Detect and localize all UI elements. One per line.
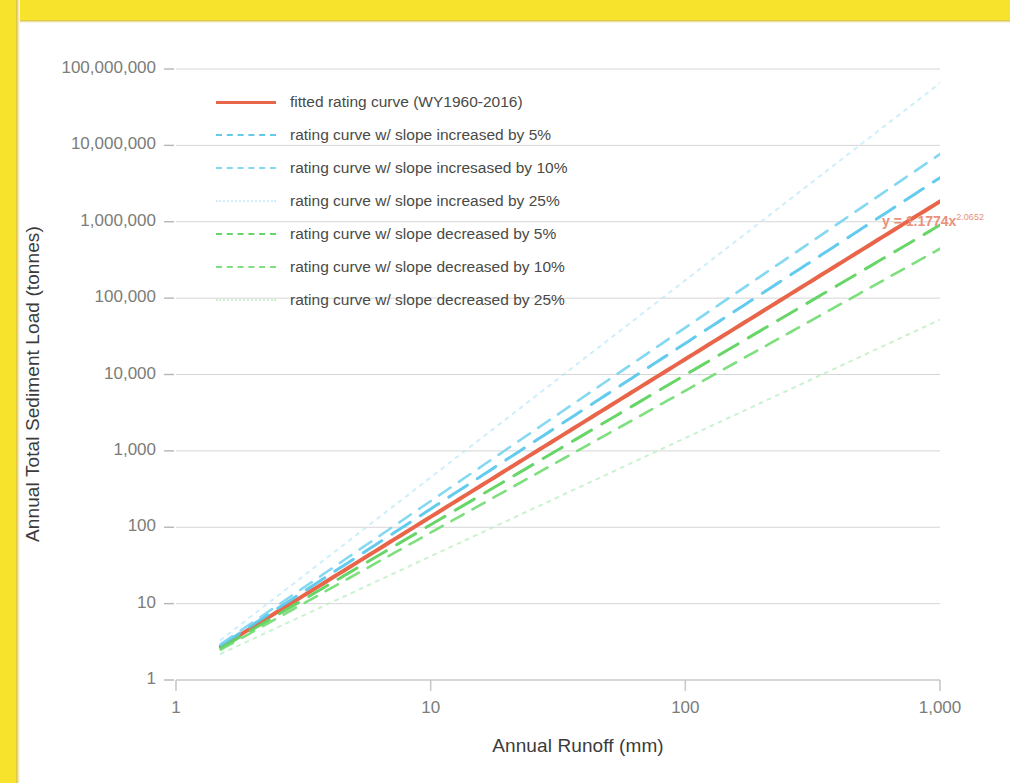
y-tick-label: 1 (20, 669, 156, 689)
x-axis-title: Annual Runoff (mm) (196, 735, 960, 757)
legend-item-1[interactable]: rating curve w/ slope increased by 5% (216, 118, 567, 151)
legend-swatch-icon (216, 128, 276, 142)
x-tick-label: 10 (386, 698, 476, 718)
equation-exponent: 2.0652 (956, 212, 984, 222)
legend-label: rating curve w/ slope increased by 5% (290, 126, 551, 144)
y-tick-mark-group (164, 69, 174, 680)
legend-swatch-icon (216, 161, 276, 175)
equation-base: y = 1.1774x (882, 213, 956, 229)
x-tick-mark-group (176, 680, 940, 691)
y-axis-title: Annual Total Sediment Load (tonnes) (22, 124, 44, 644)
fitted-equation-annotation: y = 1.1774x2.0652 (882, 212, 984, 229)
legend-label: rating curve w/ slope decreased by 10% (290, 258, 565, 276)
legend-label: fitted rating curve (WY1960-2016) (290, 93, 523, 111)
legend-label: rating curve w/ slope increased by 25% (290, 192, 560, 210)
legend-item-4[interactable]: rating curve w/ slope decreased by 5% (216, 217, 567, 250)
legend-swatch-icon (216, 293, 276, 307)
legend-label: rating curve w/ slope decreased by 5% (290, 225, 556, 243)
legend-label: rating curve w/ slope incresased by 10% (290, 159, 567, 177)
legend-swatch-icon (216, 95, 276, 109)
legend-item-0[interactable]: fitted rating curve (WY1960-2016) (216, 85, 567, 118)
page-frame-left (0, 0, 16, 783)
x-tick-label: 100 (640, 698, 730, 718)
legend-swatch-icon (216, 194, 276, 208)
x-tick-label: 1,000 (895, 698, 985, 718)
legend-label: rating curve w/ slope decreased by 25% (290, 291, 565, 309)
legend-item-6[interactable]: rating curve w/ slope decreased by 25% (216, 283, 567, 316)
y-tick-label: 100,000,000 (20, 58, 156, 78)
legend-item-3[interactable]: rating curve w/ slope increased by 25% (216, 184, 567, 217)
chart-container: 1101001,00010,000100,0001,000,00010,000,… (20, 23, 1010, 783)
legend-swatch-icon (216, 227, 276, 241)
x-tick-label: 1 (131, 698, 221, 718)
chart-legend: fitted rating curve (WY1960-2016)rating … (216, 85, 567, 316)
page-frame-top (0, 0, 1010, 20)
legend-swatch-icon (216, 260, 276, 274)
legend-item-5[interactable]: rating curve w/ slope decreased by 10% (216, 250, 567, 283)
legend-item-2[interactable]: rating curve w/ slope incresased by 10% (216, 151, 567, 184)
